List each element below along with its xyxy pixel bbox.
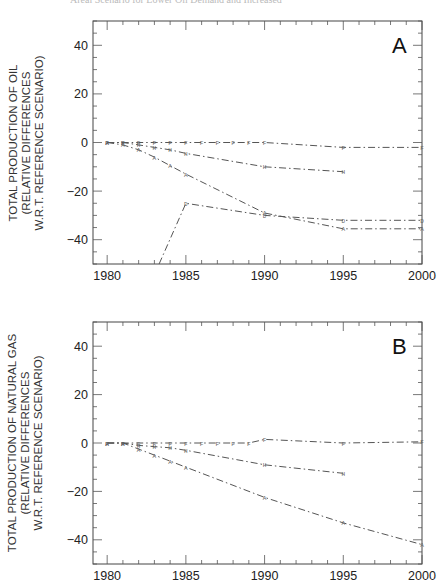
y-axis-label-gas: TOTAL PRODUCTION OF NATURAL GAS(RELATIVE… — [6, 322, 50, 564]
y-axis-label-line: TOTAL PRODUCTION OF OIL — [6, 21, 19, 264]
y-axis-label-line: (RELATIVE DIFFERENCES — [19, 21, 32, 264]
y-tick-label: 0 — [81, 437, 88, 451]
y-tick-label: 20 — [74, 388, 88, 402]
series-marker: F — [420, 439, 424, 446]
series-marker: A — [341, 226, 345, 233]
x-tick-label: 1990 — [251, 269, 279, 283]
x-tick-label: 1980 — [93, 569, 121, 583]
series-marker: H — [153, 145, 157, 152]
y-axis-label-text: TOTAL PRODUCTION OF NATURAL GAS(RELATIVE… — [6, 322, 50, 564]
chart-panel-b: 1980198519901995200040200−20−40BFFFFFFFF… — [67, 322, 436, 583]
x-tick-label: 1985 — [172, 269, 200, 283]
series-marker: F — [184, 441, 188, 448]
series-marker: A — [137, 147, 141, 154]
series-marker: F — [420, 145, 424, 152]
x-tick-label: 1995 — [329, 269, 357, 283]
x-tick-label: 1995 — [329, 569, 357, 583]
series-line-h — [107, 143, 343, 172]
x-tick-label: 1980 — [93, 269, 121, 283]
series-marker: F — [341, 145, 345, 152]
series-marker: F — [216, 140, 220, 147]
y-tick-label: −40 — [67, 233, 88, 247]
y-axis-label-line: (RELATIVE DIFFERENCES — [19, 322, 32, 564]
series-marker: A — [168, 163, 172, 170]
series-marker: F — [200, 140, 204, 147]
series-marker: D — [184, 201, 188, 208]
x-tick-label: 1990 — [251, 569, 279, 583]
series-line-h — [107, 443, 343, 473]
series-marker: A — [341, 520, 345, 527]
series-marker: H — [168, 445, 172, 452]
y-axis-label-text: TOTAL PRODUCTION OF OIL(RELATIVE DIFFERE… — [6, 21, 50, 264]
panel-label: A — [392, 33, 407, 58]
y-axis-label-oil: TOTAL PRODUCTION OF OIL(RELATIVE DIFFERE… — [6, 21, 50, 264]
series-marker: F — [247, 441, 251, 448]
series-marker: A — [184, 465, 188, 472]
series-marker: H — [184, 151, 188, 158]
series-marker: F — [200, 441, 204, 448]
series-marker: F — [341, 441, 345, 448]
series-marker: A — [153, 453, 157, 460]
series-marker: H — [263, 462, 267, 469]
series-marker: A — [420, 542, 424, 549]
series-marker: A — [105, 441, 109, 448]
panel-label: B — [392, 334, 407, 359]
y-axis-label-line: W.R.T. REFERENCE SCENARIO) — [32, 322, 45, 564]
series-marker: D — [420, 218, 424, 225]
series-marker: F — [231, 441, 235, 448]
y-axis-label-line: TOTAL PRODUCTION OF NATURAL GAS — [6, 322, 19, 564]
series-marker: A — [153, 155, 157, 162]
series-marker: H — [341, 471, 345, 478]
y-tick-label: −40 — [67, 533, 88, 547]
series-marker: F — [263, 437, 267, 444]
y-tick-label: −20 — [67, 485, 88, 499]
y-tick-label: −20 — [67, 185, 88, 199]
series-marker: F — [168, 140, 172, 147]
series-marker: F — [263, 140, 267, 147]
x-tick-label: 1985 — [172, 569, 200, 583]
series-marker: F — [184, 140, 188, 147]
series-marker: H — [184, 448, 188, 455]
y-tick-label: 40 — [74, 340, 88, 354]
series-marker: A — [420, 226, 424, 233]
y-tick-label: 20 — [74, 87, 88, 101]
figure-canvas: 1980198519901995200040200−20−40AFFFFFFFF… — [0, 0, 447, 585]
series-marker: A — [121, 142, 125, 149]
series-marker: A — [184, 172, 188, 179]
y-tick-label: 0 — [81, 136, 88, 150]
series-marker: F — [231, 140, 235, 147]
series-marker: H — [263, 164, 267, 171]
series-marker: A — [263, 495, 267, 502]
series-marker: H — [341, 169, 345, 176]
series-marker: A — [168, 459, 172, 466]
y-axis-label-line: W.R.T. REFERENCE SCENARIO) — [32, 21, 45, 264]
x-tick-label: 2000 — [408, 569, 436, 583]
series-marker: A — [121, 441, 125, 448]
series-line-d — [159, 203, 422, 264]
chart-panel-a: 1980198519901995200040200−20−40AFFFFFFFF… — [67, 21, 436, 283]
series-marker: H — [168, 147, 172, 154]
series-marker: F — [247, 140, 251, 147]
series-marker: A — [137, 447, 141, 454]
series-marker: D — [263, 213, 267, 220]
x-tick-label: 2000 — [408, 269, 436, 283]
series-marker: A — [105, 140, 109, 147]
series-marker: F — [216, 441, 220, 448]
series-marker: H — [153, 444, 157, 451]
series-marker: D — [341, 218, 345, 225]
y-tick-label: 40 — [74, 39, 88, 53]
